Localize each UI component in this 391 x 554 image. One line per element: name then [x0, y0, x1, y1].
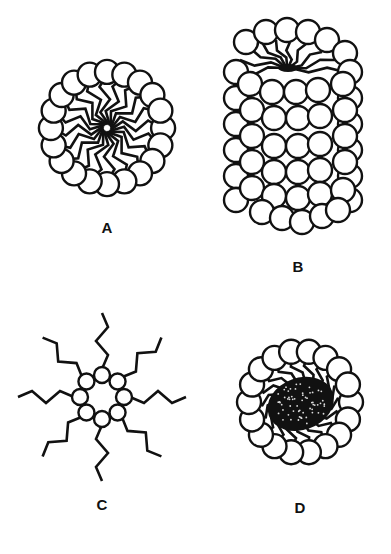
core-stipple — [299, 409, 301, 411]
hydrophobic-tail — [18, 391, 74, 403]
polar-head — [72, 389, 88, 405]
core-stipple — [293, 410, 295, 412]
core-stipple — [302, 392, 304, 394]
panel-label-d: D — [295, 499, 306, 516]
core-stipple — [288, 414, 290, 416]
polar-head — [240, 124, 264, 148]
hydrophobic-tail — [96, 425, 108, 481]
panel-label-b: B — [293, 258, 304, 275]
core-stipple — [302, 412, 304, 414]
hydrophobic-tail — [122, 417, 162, 457]
polar-head — [94, 411, 110, 427]
polar-head — [308, 132, 332, 156]
polar-head — [240, 176, 264, 200]
core-stipple — [322, 400, 324, 402]
polar-head — [308, 158, 332, 182]
polar-head — [326, 198, 350, 222]
core-stipple — [287, 390, 289, 392]
panel-b-elongated-aggregate — [224, 18, 362, 234]
polar-head — [336, 373, 360, 397]
core-stipple — [323, 413, 325, 415]
tail-cluster — [278, 64, 298, 72]
core-stipple — [309, 386, 311, 388]
polar-head — [262, 160, 286, 184]
hydrophobic-tail — [130, 391, 186, 403]
core-stipple — [278, 412, 280, 414]
panel-c-reverse-micelle — [18, 313, 186, 481]
core-stipple — [290, 419, 292, 421]
core-stipple — [323, 405, 325, 407]
polar-head — [238, 72, 262, 96]
core-stipple — [295, 388, 297, 390]
core-stipple — [305, 416, 307, 418]
core-stipple — [323, 403, 325, 405]
core-stipple — [318, 390, 320, 392]
core-stipple — [291, 396, 293, 398]
polar-head — [306, 78, 330, 102]
hydrophobic-tail — [43, 417, 83, 457]
polar-head — [262, 134, 286, 158]
core-stipple — [320, 402, 322, 404]
micelle-diagram — [0, 0, 391, 554]
core-stipple — [306, 422, 308, 424]
polar-head — [262, 106, 286, 130]
polar-head — [110, 405, 126, 421]
core-stipple — [295, 383, 297, 385]
core-stipple — [309, 408, 311, 410]
core-stipple — [284, 397, 286, 399]
core-stipple — [306, 397, 308, 399]
core-stipple — [281, 404, 283, 406]
core-stipple — [292, 398, 294, 400]
core-stipple — [296, 405, 298, 407]
polar-head — [78, 373, 94, 389]
core-stipple — [277, 393, 279, 395]
core-stipple — [282, 409, 284, 411]
core-stipple — [282, 419, 284, 421]
polar-head — [286, 160, 310, 184]
polar-head — [331, 72, 355, 96]
polar-head — [333, 124, 357, 148]
panel-label-c: C — [97, 496, 108, 513]
polar-head — [78, 405, 94, 421]
core-stipple — [301, 399, 303, 401]
core-stipple — [285, 386, 287, 388]
core-stipple — [311, 402, 313, 404]
panel-d-micelle-with-core — [237, 340, 363, 464]
core-stipple — [312, 404, 314, 406]
core-stipple — [300, 417, 302, 419]
polar-head — [333, 98, 357, 122]
core-stipple — [320, 390, 322, 392]
polar-head — [286, 186, 310, 210]
core-stipple — [287, 398, 289, 400]
panel-a-spherical-micelle — [39, 60, 175, 196]
polar-head — [116, 389, 132, 405]
hydrophobic-tail — [43, 338, 83, 378]
polar-head — [260, 80, 284, 104]
polar-head — [284, 80, 308, 104]
core-stipple — [283, 389, 285, 391]
core-stipple — [289, 405, 291, 407]
core-stipple — [299, 383, 301, 385]
core-stipple — [302, 394, 304, 396]
core-stipple — [289, 398, 291, 400]
hydrophobic-tail — [122, 338, 162, 378]
core-stipple — [290, 388, 292, 390]
core-stipple — [294, 398, 296, 400]
polar-head — [110, 373, 126, 389]
polar-head — [240, 98, 264, 122]
panel-label-a: A — [102, 219, 113, 236]
core-stipple — [297, 419, 299, 421]
core-stipple — [311, 412, 313, 414]
polar-head — [94, 367, 110, 383]
polar-head — [286, 106, 310, 130]
polar-head — [286, 134, 310, 158]
core-stipple — [317, 404, 319, 406]
hydrophobic-tail — [96, 313, 108, 369]
polar-head — [308, 104, 332, 128]
core-stipple — [312, 391, 314, 393]
core-stipple — [311, 408, 313, 410]
core-stipple — [279, 401, 281, 403]
core-stipple — [317, 412, 319, 414]
core-stipple — [309, 392, 311, 394]
polar-head — [240, 150, 264, 174]
